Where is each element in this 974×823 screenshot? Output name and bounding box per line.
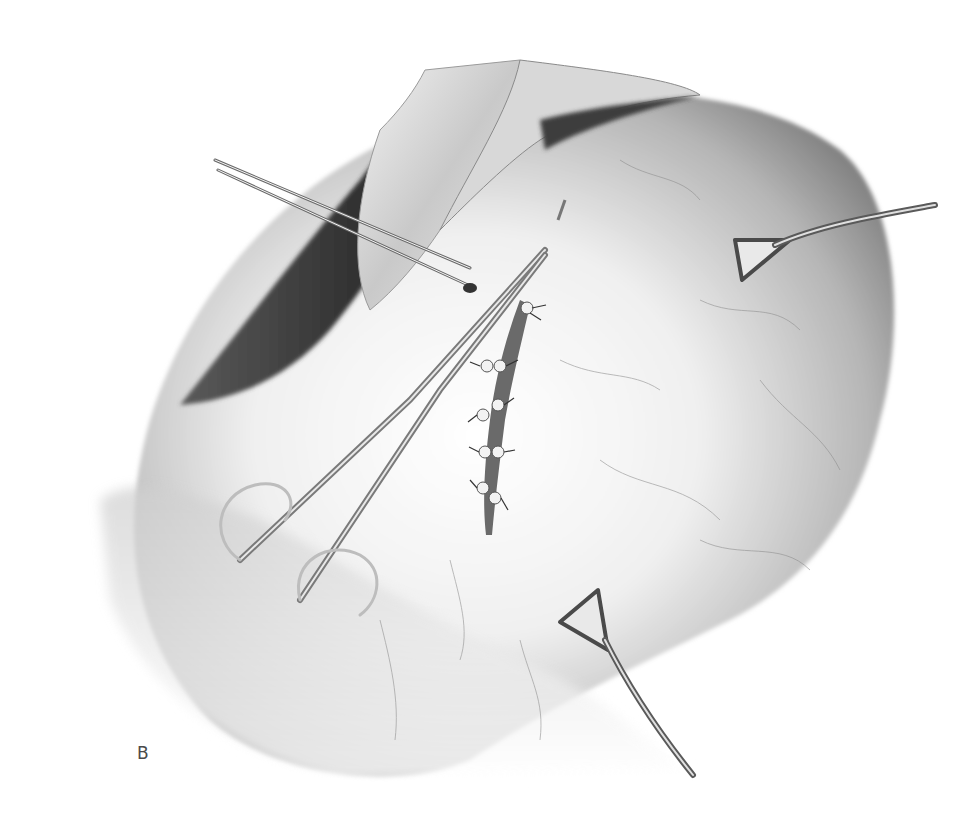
panel-label: B: [137, 743, 149, 763]
surgical-illustration: [0, 0, 974, 823]
